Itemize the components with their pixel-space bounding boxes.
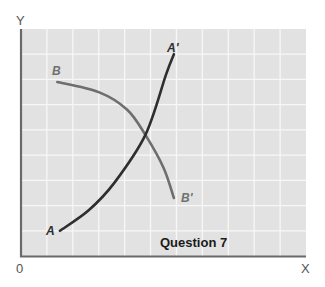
curve-a-start-label: A (46, 225, 55, 237)
curve-a-end-label: A' (167, 42, 179, 54)
chart: Y X 0 A A' B B' Question 7 (0, 0, 325, 287)
plot-background (21, 29, 306, 256)
curve-b-end-label: B' (181, 192, 193, 204)
y-axis-label: Y (16, 14, 25, 27)
origin-label: 0 (16, 262, 23, 275)
x-axis-label: X (301, 262, 310, 275)
curve-b-start-label: B (52, 65, 61, 77)
chart-title: Question 7 (160, 236, 227, 249)
